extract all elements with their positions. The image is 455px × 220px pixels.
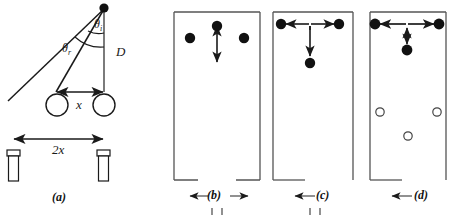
panel-a: θi θr D x 2x (a)	[0, 0, 160, 220]
lens-circle-left	[46, 94, 68, 116]
dot-right	[334, 19, 344, 29]
panel-c-caption: (c)	[316, 188, 329, 203]
angle-outer-label: θr	[62, 41, 71, 57]
open-circle-center	[404, 132, 412, 140]
panel-d: (d)	[360, 0, 455, 220]
separation-2x-label: 2x	[52, 142, 64, 158]
dot-left	[185, 33, 195, 43]
dot-right	[434, 19, 445, 30]
dot-right	[239, 33, 249, 43]
panel-b-drawing	[170, 0, 265, 215]
detector-right	[97, 150, 110, 181]
detector-left	[7, 150, 20, 181]
figure-root: θi θr D x 2x (a)	[0, 0, 455, 220]
dot-left	[370, 19, 381, 30]
angle-inner-label: θi	[94, 17, 102, 33]
distance-d-label: D	[116, 44, 125, 60]
dot-center-bottom	[305, 58, 315, 68]
panel-b-caption: (b)	[207, 188, 221, 203]
refracted-ray	[8, 9, 104, 101]
panel-c: (c)	[265, 0, 360, 220]
source-point-dot	[99, 3, 108, 12]
open-circle-left	[376, 108, 384, 116]
dot-center-bottom	[402, 45, 413, 56]
lens-circle-right	[93, 94, 115, 116]
panel-d-drawing	[360, 0, 455, 215]
angle-arc-outer	[75, 37, 104, 47]
panel-b: (b)	[170, 0, 265, 220]
panel-a-caption: (a)	[52, 190, 66, 205]
panel-c-drawing	[265, 0, 360, 215]
separation-x-label: x	[76, 97, 82, 113]
panel-c-box	[273, 12, 353, 180]
dot-center-top	[212, 21, 222, 31]
panel-d-box	[370, 12, 446, 180]
panel-d-caption: (d)	[414, 188, 428, 203]
dot-left	[276, 19, 286, 29]
open-circle-right	[433, 108, 441, 116]
